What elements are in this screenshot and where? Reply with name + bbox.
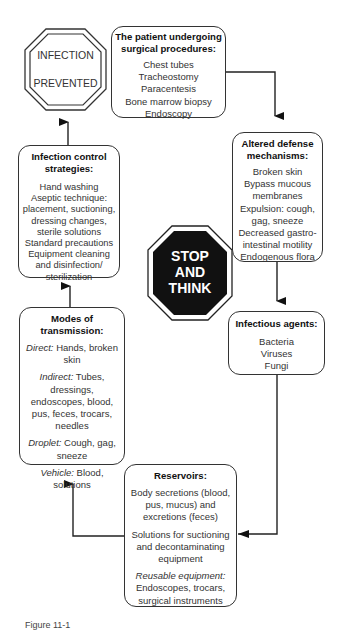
droplet-label: Droplet: <box>28 437 61 448</box>
reservoir-secretions: Body secretions (blood, pus, mucus) and … <box>129 487 232 524</box>
box-title: Modes of transmission: <box>23 313 121 337</box>
box-title: The patient undergoing surgical procedur… <box>115 31 222 55</box>
sign-line-2: PREVENTED <box>25 76 106 90</box>
transmission-direct: Direct: Hands, broken skin <box>23 342 121 366</box>
list-item: Broken skin <box>236 166 319 178</box>
box-title: Infectious agents: <box>232 318 321 330</box>
infection-control-strategies-box: Infection control strategies: Hand washi… <box>18 145 120 278</box>
box-title: Reservoirs: <box>129 470 232 482</box>
list-item: Aseptic technique: placement, suctioning… <box>22 193 116 238</box>
reservoir-equipment-label: Reusable equipment: <box>136 570 226 581</box>
reservoir-equipment-value: Endoscopes, trocars, surgical instrument… <box>136 582 225 605</box>
box-title: Infection control strategies: <box>22 151 116 175</box>
list-item: Paracentesis <box>115 83 222 95</box>
modes-of-transmission-box: Modes of transmission: Direct: Hands, br… <box>19 307 125 465</box>
defense-mechanisms-box: Altered defense mechanisms: Broken skin … <box>232 132 323 262</box>
list-item: Endogenous flora <box>236 251 319 263</box>
box-title: Altered defense mechanisms: <box>236 138 319 162</box>
list-item: Endoscopy <box>115 108 222 120</box>
reservoirs-box: Reservoirs: Body secretions (blood, pus,… <box>124 464 237 607</box>
list-item: Standard precautions <box>22 238 116 249</box>
list-item: Decreased gastro-intestinal motility <box>236 227 319 251</box>
direct-value: Hands, broken skin <box>56 342 118 365</box>
list-item: Hand washing <box>22 182 116 193</box>
vehicle-label: Vehicle: <box>40 467 73 478</box>
list-item: Chest tubes <box>115 59 222 71</box>
transmission-vehicle: Vehicle: Blood, solutions <box>23 467 121 491</box>
list-item: Equipment cleaning and disinfection/ ste… <box>22 249 116 283</box>
list-item: Tracheostomy <box>115 71 222 83</box>
reservoir-solutions: Solutions for suctioning and decontamina… <box>129 529 232 566</box>
stop-and-think-text: STOP AND THINK <box>148 248 232 296</box>
droplet-value: Cough, gag, sneeze <box>57 437 116 460</box>
stop-line-1: STOP <box>148 248 232 264</box>
list-item: Fungi <box>232 360 321 372</box>
stop-line-2: AND <box>148 264 232 280</box>
list-item: Bacteria <box>232 336 321 348</box>
direct-label: Direct: <box>26 342 53 353</box>
sign-line-1: INFECTION <box>25 48 106 62</box>
transmission-droplet: Droplet: Cough, gag, sneeze <box>23 437 121 461</box>
stop-line-3: THINK <box>148 280 232 296</box>
patient-procedures-box: The patient undergoing surgical procedur… <box>111 26 226 118</box>
list-item: Bypass mucous membranes <box>236 178 319 202</box>
list-item: Expulsion: cough, gag, sneeze <box>236 203 319 227</box>
list-item: Viruses <box>232 348 321 360</box>
list-item: Bone marrow biopsy <box>115 96 222 108</box>
figure-caption: Figure 11-1 <box>25 620 70 630</box>
reservoir-equipment: Reusable equipment: Endoscopes, trocars,… <box>129 570 232 607</box>
indirect-label: Indirect: <box>40 371 74 382</box>
infectious-agents-box: Infectious agents: Bacteria Viruses Fung… <box>228 311 325 375</box>
transmission-indirect: Indirect: Tubes, dressings, endoscopes, … <box>23 371 121 432</box>
infection-prevented-text: INFECTION PREVENTED <box>25 48 106 90</box>
